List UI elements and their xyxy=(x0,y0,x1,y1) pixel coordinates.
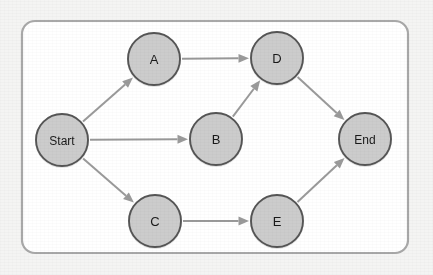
node-a[interactable]: A xyxy=(128,33,180,85)
diagram-canvas: StartABCDEEnd xyxy=(0,0,433,275)
node-c[interactable]: C xyxy=(129,195,181,247)
node-b[interactable]: B xyxy=(190,113,242,165)
node-e[interactable]: E xyxy=(251,195,303,247)
node-label-c: C xyxy=(150,214,159,229)
node-d[interactable]: D xyxy=(251,32,303,84)
node-label-e: E xyxy=(273,214,282,229)
node-label-a: A xyxy=(150,52,159,67)
edge-line-start-b xyxy=(90,139,178,140)
node-label-end: End xyxy=(354,133,375,147)
node-label-d: D xyxy=(272,51,281,66)
node-start[interactable]: Start xyxy=(36,114,88,166)
graph-svg: StartABCDEEnd xyxy=(0,0,433,275)
node-label-start: Start xyxy=(49,134,75,148)
node-label-b: B xyxy=(212,132,221,147)
node-end[interactable]: End xyxy=(339,113,391,165)
